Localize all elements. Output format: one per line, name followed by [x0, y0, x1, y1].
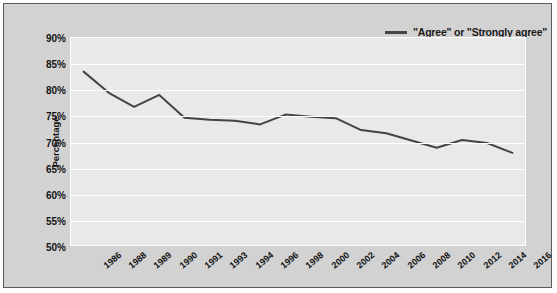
gridline — [71, 143, 525, 144]
gridline — [71, 64, 525, 65]
x-axis-tick-label: 2014 — [507, 250, 529, 271]
y-axis-tick-label: 65% — [46, 163, 66, 174]
x-axis-tick-label: 2000 — [329, 250, 351, 271]
y-axis-tick-label: 80% — [46, 85, 66, 96]
x-axis-tick-label: 2016 — [532, 250, 554, 271]
x-axis-tick-label: 2002 — [355, 250, 377, 271]
x-axis-tick-label: 1989 — [152, 250, 174, 271]
x-axis-tick-label: 1993 — [228, 250, 250, 271]
x-axis-tick-label: 2008 — [431, 250, 453, 271]
x-axis-tick-label: 1994 — [253, 250, 275, 271]
gridline — [71, 169, 525, 170]
y-axis-tick-label: 55% — [46, 215, 66, 226]
gridline — [71, 221, 525, 222]
series-polyline — [84, 72, 513, 153]
chart-frame: "Agree" or "Strongly agree" Percentage 9… — [3, 3, 552, 288]
x-axis-tick-label: 1991 — [203, 250, 225, 271]
gridline — [71, 195, 525, 196]
x-axis-tick-label: 2006 — [405, 250, 427, 271]
x-axis-tick-label: 1990 — [177, 250, 199, 271]
plot-area: Percentage 90%85%80%75%70%65%60%55%50%19… — [70, 37, 526, 246]
y-axis-tick-label: 90% — [46, 33, 66, 44]
chart-container: "Agree" or "Strongly agree" Percentage 9… — [0, 0, 557, 293]
gridline — [71, 116, 525, 117]
x-axis-tick-label: 1988 — [127, 250, 149, 271]
data-series-line — [71, 38, 525, 245]
y-axis-tick-label: 50% — [46, 242, 66, 253]
y-axis-tick-label: 85% — [46, 59, 66, 70]
y-axis-tick-label: 60% — [46, 189, 66, 200]
x-axis-tick-label: 2010 — [456, 250, 478, 271]
x-axis-tick-label: 1996 — [279, 250, 301, 271]
legend-line-swatch — [385, 31, 407, 34]
x-axis-tick-label: 2004 — [380, 250, 402, 271]
gridline — [71, 90, 525, 91]
x-axis-tick-label: 2012 — [481, 250, 503, 271]
x-axis-tick-label: 1986 — [101, 250, 123, 271]
y-axis-tick-label: 70% — [46, 137, 66, 148]
x-axis-tick-label: 1998 — [304, 250, 326, 271]
y-axis-tick-label: 75% — [46, 111, 66, 122]
